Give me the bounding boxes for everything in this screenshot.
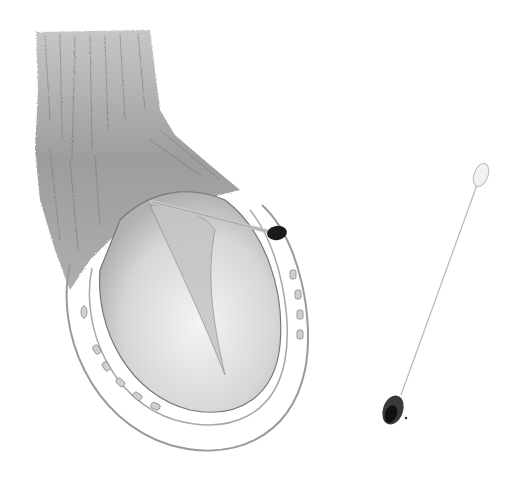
swab-tip-dirty	[266, 224, 288, 241]
cotton-swab-used	[378, 161, 491, 427]
hoof-sole	[100, 192, 281, 412]
illustration-canvas	[0, 0, 521, 480]
hoof-illustration	[0, 0, 521, 480]
swab-clean-tip	[470, 161, 491, 188]
